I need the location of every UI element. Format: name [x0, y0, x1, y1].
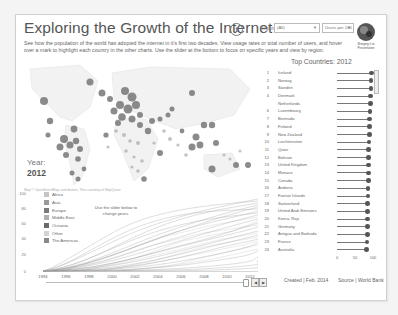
country-dot[interactable] [364, 247, 369, 252]
country-dot[interactable] [369, 86, 374, 91]
legend-label: Europe [52, 208, 66, 213]
country-dot[interactable] [368, 109, 373, 114]
country-bar [337, 111, 370, 112]
legend-item-other[interactable]: Other [44, 229, 78, 237]
region-dropdown[interactable]: (All) ▼ [274, 23, 320, 33]
country-rank: 21 [261, 224, 269, 229]
legend-item-africa[interactable]: Africa [44, 191, 78, 199]
chevron-down-icon: ▼ [347, 24, 351, 32]
country-row[interactable]: 16Andorra [261, 184, 379, 192]
country-row[interactable]: 24Australia [261, 246, 379, 254]
country-row[interactable]: 17Faeroe Islands [261, 192, 379, 200]
country-dot[interactable] [365, 201, 370, 206]
source-label: Source | World Bank [338, 277, 384, 283]
country-row[interactable]: Netherlands [261, 100, 379, 108]
country-dot[interactable] [366, 178, 371, 183]
country-dot[interactable] [367, 117, 372, 122]
country-row[interactable]: 13United Kingdom [261, 161, 379, 169]
country-name: Germany [278, 224, 295, 229]
measure-dropdown[interactable]: Users per 100 ▼ [322, 23, 354, 33]
country-dot[interactable] [365, 224, 370, 229]
prev-year-button[interactable]: ◀ [251, 278, 259, 287]
country-row[interactable]: 9New Zealand [261, 131, 379, 139]
legend-item-middle-east[interactable]: Middle East [44, 214, 78, 222]
country-row[interactable]: 4Denmark [261, 92, 379, 100]
next-year-button[interactable]: ▶ [259, 278, 267, 287]
country-row[interactable]: 20Korea, Rep. [261, 215, 379, 223]
country-bar [337, 73, 372, 74]
country-rank: 11 [261, 147, 269, 152]
country-bar [337, 126, 370, 127]
country-dot[interactable] [367, 132, 372, 137]
country-dot[interactable] [365, 217, 370, 222]
info-icon[interactable]: i [230, 23, 243, 36]
axis-tick: 100 [370, 255, 377, 260]
legend-item-the-americas[interactable]: The Americas [44, 237, 78, 245]
country-bar [337, 165, 368, 166]
country-dot[interactable] [369, 78, 374, 83]
top-countries-chart: 1Iceland2Norway3Sweden4DenmarkNetherland… [261, 69, 379, 254]
country-row[interactable]: 23France [261, 238, 379, 246]
country-dot[interactable] [365, 209, 370, 214]
country-row[interactable]: 8Finland [261, 123, 379, 131]
legend-label: Asia [52, 200, 60, 205]
legend-swatch [44, 231, 49, 236]
country-name: Liechtenstein [278, 139, 302, 144]
country-row[interactable]: 22Antigua and Barbuda [261, 230, 379, 238]
country-row[interactable]: 3Sweden [261, 84, 379, 92]
country-dot[interactable] [366, 186, 371, 191]
logo-icon [356, 22, 376, 42]
country-dot[interactable] [365, 240, 370, 245]
country-row[interactable]: 15Canada [261, 177, 379, 185]
year-slider-handle[interactable] [243, 279, 249, 287]
y-tick: 60 [14, 221, 26, 226]
country-rank: 20 [261, 216, 269, 221]
country-dot[interactable] [368, 101, 373, 106]
country-dot[interactable] [368, 94, 373, 99]
legend-swatch [44, 200, 49, 205]
country-bar [337, 103, 370, 104]
country-dot[interactable] [366, 155, 371, 160]
world-map[interactable] [20, 59, 256, 189]
country-bar [337, 188, 368, 189]
country-dot[interactable] [367, 124, 372, 129]
legend-swatch [44, 223, 49, 228]
country-name: Norway [278, 78, 292, 83]
country-row[interactable]: 14Monaco [261, 169, 379, 177]
country-row[interactable]: 10Liechtenstein [261, 138, 379, 146]
legend-item-oceania[interactable]: Oceania [44, 222, 78, 230]
country-dot[interactable] [366, 194, 371, 199]
country-dot[interactable] [366, 163, 371, 168]
legend-label: Middle East [52, 215, 74, 220]
legend-item-europe[interactable]: Europe [44, 206, 78, 214]
country-row[interactable]: 2Norway [261, 77, 379, 85]
x-tick: 1998 [84, 274, 93, 279]
country-row[interactable]: 7Bermuda [261, 115, 379, 123]
country-name: Australia [278, 247, 294, 252]
country-row[interactable]: 1Iceland [261, 69, 379, 77]
country-row[interactable]: 11Qatar [261, 146, 379, 154]
country-bar [337, 219, 367, 220]
country-name: Andorra [278, 185, 293, 190]
country-bar [337, 172, 368, 173]
country-dot[interactable] [366, 171, 371, 176]
x-tick: 2010 [222, 274, 231, 279]
country-row[interactable]: 18Switzerland [261, 200, 379, 208]
year-slider-track[interactable] [46, 282, 244, 283]
legend-item-asia[interactable]: Asia [44, 199, 78, 207]
country-rank: 4 [261, 93, 269, 98]
country-dot[interactable] [367, 140, 372, 145]
country-row[interactable]: 6Luxembourg [261, 107, 379, 115]
country-rank: 24 [261, 247, 269, 252]
country-dot[interactable] [365, 232, 370, 237]
country-rank: 6 [261, 108, 269, 113]
country-dot[interactable] [366, 147, 371, 152]
country-bar [337, 157, 369, 158]
country-row[interactable]: 19United Arab Emirates [261, 207, 379, 215]
country-row[interactable]: 12Bahrain [261, 154, 379, 162]
country-rank: 1 [261, 70, 269, 75]
country-rank: 18 [261, 201, 269, 206]
slider-hint: Use the slider below to change years. [91, 205, 141, 217]
scrollbar[interactable] [374, 70, 379, 94]
country-row[interactable]: 21Germany [261, 223, 379, 231]
